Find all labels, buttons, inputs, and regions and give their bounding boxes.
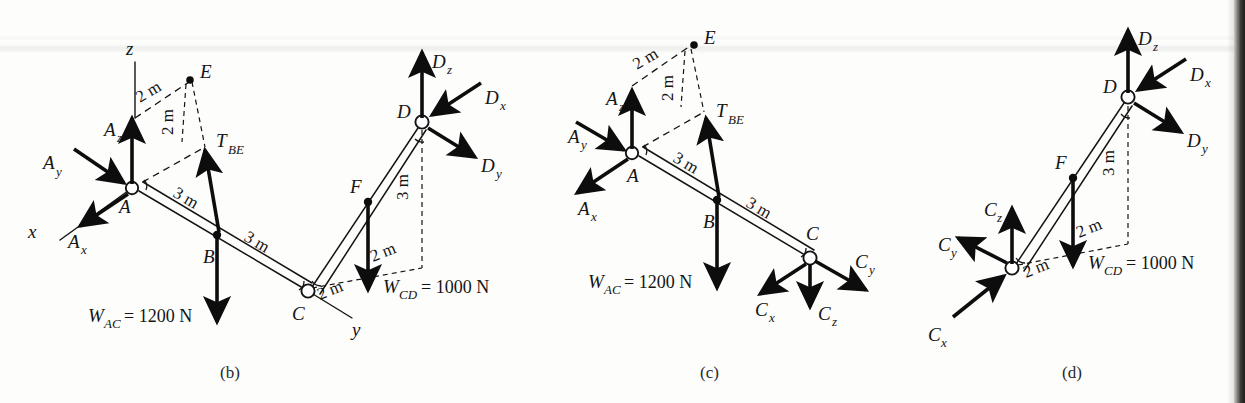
svg-text:y: y bbox=[949, 245, 957, 260]
panel-d-label-D: D bbox=[1102, 76, 1117, 97]
panel-b-axis-label-x: x bbox=[27, 221, 37, 242]
panel-b-label-D: D bbox=[396, 101, 411, 122]
figure-page: z x y 2 m 2 m bbox=[0, 0, 1245, 403]
svg-text:C: C bbox=[755, 299, 768, 320]
panel-d-dim-3m-vert: 3 m bbox=[1099, 150, 1118, 176]
panel-c-load-WAC-label: W AC = 1200 N bbox=[588, 271, 692, 297]
svg-text:C: C bbox=[928, 324, 941, 345]
svg-text:x: x bbox=[768, 310, 775, 325]
panel-b-force-Dx-label: D x bbox=[484, 87, 506, 113]
panel-b-force-TBE-label: T BE bbox=[216, 130, 244, 157]
panel-d-force-Cy-label: C y bbox=[938, 234, 957, 260]
svg-text:A: A bbox=[604, 88, 618, 109]
panel-b-dim-3m-BC: 3 m bbox=[241, 227, 273, 256]
svg-text:y: y bbox=[1200, 141, 1208, 156]
panel-b-force-Dy-label: D y bbox=[480, 155, 502, 181]
panel-c-force-Ay-label: A y bbox=[566, 126, 587, 152]
panel-d-caption: (d) bbox=[1062, 363, 1082, 382]
panel-b-member-CD-left bbox=[310, 128, 418, 290]
panel-d-dim-2m-diag: 2 m bbox=[1073, 214, 1104, 241]
panel-c-point-B bbox=[713, 196, 721, 204]
svg-text:y: y bbox=[867, 262, 875, 277]
svg-text:x: x bbox=[590, 209, 597, 224]
svg-text:z: z bbox=[618, 99, 624, 114]
panel-b-member-AC-upper bbox=[143, 182, 312, 283]
panel-c-force-Cx-arrow bbox=[760, 264, 806, 294]
panel-c-point-E bbox=[690, 41, 698, 49]
svg-text:z: z bbox=[831, 314, 837, 329]
panel-b-load-WCD-label: W CD = 1000 N bbox=[383, 276, 489, 302]
panel-d-label-F: F bbox=[1054, 152, 1067, 173]
panel-b-force-Ay-label: A y bbox=[41, 152, 62, 179]
svg-text:C: C bbox=[938, 234, 951, 255]
panel-c-force-Ax-label: A x bbox=[576, 198, 597, 224]
panel-c-dim-3m-AB: 3 m bbox=[670, 148, 702, 177]
panel-c-force-Cy-label: C y bbox=[855, 251, 875, 277]
panel-d-load-WCD-label: W CD = 1000 N bbox=[1088, 252, 1194, 278]
panel-d: 3 m 2 m 2 m D F W CD = 1000 N D z bbox=[928, 28, 1211, 382]
panel-b-label-E: E bbox=[199, 61, 212, 82]
svg-text:= 1200 N: = 1200 N bbox=[624, 272, 692, 292]
panel-b-axis-label-z: z bbox=[125, 38, 134, 59]
svg-text:BE: BE bbox=[728, 112, 744, 127]
panel-c-member-AC-lower bbox=[639, 156, 810, 258]
panel-b-member-AC-lower bbox=[139, 191, 308, 291]
svg-text:AC: AC bbox=[603, 282, 621, 297]
svg-text:z: z bbox=[116, 130, 122, 145]
panel-b-force-Dz-label: D z bbox=[431, 51, 452, 77]
panel-b-dim-3m-AB: 3 m bbox=[170, 183, 202, 212]
svg-text:y: y bbox=[579, 137, 587, 152]
svg-text:y: y bbox=[54, 164, 62, 179]
panel-d-force-Cx-arrow bbox=[953, 276, 1004, 317]
panel-b-caption: (b) bbox=[220, 363, 240, 382]
panel-b-dash-vertical-2m bbox=[192, 82, 205, 147]
panel-d-force-Dy-arrow bbox=[1134, 103, 1181, 132]
panel-b-label-F: F bbox=[349, 176, 362, 197]
svg-text:C: C bbox=[855, 251, 868, 272]
panel-d-force-Dx-arrow bbox=[1138, 59, 1186, 90]
panel-b-force-Dx-arrow bbox=[432, 83, 481, 115]
svg-text:z: z bbox=[446, 62, 452, 77]
panel-b-dim-3m-vert: 3 m bbox=[393, 174, 412, 200]
panel-c-member-AC-upper bbox=[643, 147, 814, 250]
panel-d-member-CD-left bbox=[1014, 103, 1124, 267]
svg-text:A: A bbox=[566, 126, 580, 147]
svg-text:CD: CD bbox=[399, 287, 418, 302]
panel-c-force-TBE-arrow bbox=[706, 118, 719, 197]
panel-c-force-TBE-label: T BE bbox=[716, 100, 744, 127]
panel-c-label-C: C bbox=[806, 223, 819, 244]
panel-b-load-WAC-label: W AC = 1200 N bbox=[88, 305, 192, 331]
svg-text:CD: CD bbox=[1104, 263, 1123, 278]
panel-c-caption: (c) bbox=[700, 363, 719, 382]
panel-b-dim-2m-vert: 2 m bbox=[158, 109, 177, 135]
svg-text:z: z bbox=[996, 210, 1002, 225]
panel-c: 2 m 2 m 3 m 3 m A B C E A z bbox=[566, 27, 875, 382]
panel-b-member-CD-right bbox=[320, 130, 426, 294]
svg-text:A: A bbox=[576, 198, 590, 219]
svg-text:z: z bbox=[1152, 39, 1158, 54]
panel-b-point-B bbox=[213, 231, 221, 239]
panel-c-dash-vertical-inner bbox=[681, 51, 685, 107]
panel-b-joint-C bbox=[301, 284, 314, 297]
svg-text:D: D bbox=[484, 87, 499, 108]
panel-b-point-F bbox=[364, 198, 372, 206]
svg-text:= 1000 N: = 1000 N bbox=[421, 277, 489, 297]
panel-b-dim-2m-near-C: 2 m bbox=[314, 276, 345, 303]
svg-text:A: A bbox=[41, 152, 55, 173]
svg-text:x: x bbox=[499, 98, 506, 113]
svg-text:x: x bbox=[1204, 75, 1211, 90]
svg-text:AC: AC bbox=[103, 316, 121, 331]
svg-text:T: T bbox=[216, 130, 228, 151]
panel-c-dash-vertical-2m bbox=[691, 49, 704, 112]
panel-b-force-Ay-arrow bbox=[74, 149, 124, 183]
panel-b-dim-2m-diag: 2 m bbox=[367, 238, 398, 265]
panel-b-axis-label-y: y bbox=[350, 319, 361, 340]
panel-d-force-Cy-arrow bbox=[958, 238, 1007, 263]
svg-text:D: D bbox=[1189, 64, 1204, 85]
svg-text:D: D bbox=[1186, 130, 1201, 151]
svg-text:x: x bbox=[940, 335, 947, 350]
svg-text:T: T bbox=[716, 100, 728, 121]
panel-c-label-E: E bbox=[703, 27, 716, 48]
svg-text:= 1200 N: = 1200 N bbox=[124, 306, 192, 326]
panel-c-dim-3m-BC: 3 m bbox=[743, 193, 775, 222]
